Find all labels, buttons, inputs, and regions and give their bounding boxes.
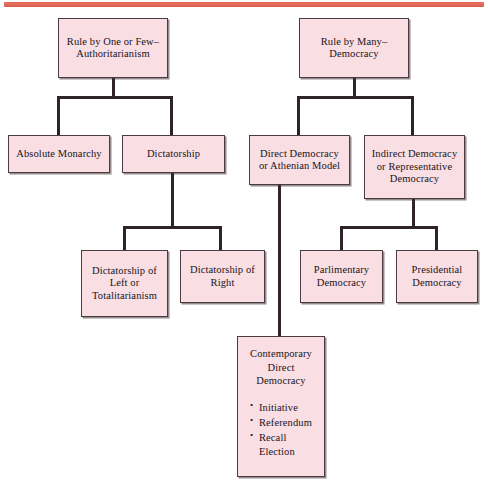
connector-democracy-stem xyxy=(353,78,356,98)
connector-to-direct-democracy xyxy=(297,96,300,136)
node-indirect-democracy-label: Indirect Democracy or Representative Dem… xyxy=(372,148,457,185)
node-presidential-democracy-label: Presidential Democracy xyxy=(412,264,463,289)
node-democracy-label: Rule by Many– Democracy xyxy=(321,36,388,61)
connector-to-presidential-democracy xyxy=(435,226,438,250)
node-parliamentary-democracy[interactable]: Parlimentary Democracy xyxy=(300,250,383,303)
connector-democracy-bar xyxy=(297,96,413,99)
node-dictatorship-left[interactable]: Dictatorship of Left or Totalitarianism xyxy=(81,250,168,317)
connector-to-dictatorship-left xyxy=(123,226,126,250)
node-democracy[interactable]: Rule by Many– Democracy xyxy=(299,18,409,78)
connector-to-dictatorship xyxy=(170,96,173,136)
top-rule-divider xyxy=(4,2,484,7)
connector-indirect-democracy-bar xyxy=(340,226,438,229)
government-forms-diagram: Rule by One or Few– Authoritarianism Rul… xyxy=(0,0,488,487)
connector-to-contemporary-direct-democracy xyxy=(278,185,281,337)
connector-to-dictatorship-right xyxy=(219,226,222,250)
node-contemporary-direct-democracy-heading: Contemporary Direct Democracy xyxy=(244,347,318,388)
list-item: Recall Election xyxy=(250,431,318,459)
connector-authoritarianism-stem xyxy=(112,78,115,98)
list-item: Initiative xyxy=(250,401,318,415)
node-presidential-democracy[interactable]: Presidential Democracy xyxy=(396,250,478,303)
contemporary-direct-democracy-bullet-list: Initiative Referendum Recall Election xyxy=(244,401,318,458)
node-absolute-monarchy-label: Absolute Monarchy xyxy=(16,148,101,160)
node-parliamentary-democracy-label: Parlimentary Democracy xyxy=(314,264,369,289)
list-item: Referendum xyxy=(250,416,318,430)
node-dictatorship-right-label: Dictatorship of Right xyxy=(190,264,255,289)
connector-authoritarianism-bar xyxy=(57,96,172,99)
node-dictatorship-left-label: Dictatorship of Left or Totalitarianism xyxy=(92,265,157,302)
connector-to-absolute-monarchy xyxy=(57,96,60,136)
node-absolute-monarchy[interactable]: Absolute Monarchy xyxy=(8,135,110,173)
node-direct-democracy-label: Direct Democracy or Athenian Model xyxy=(259,148,340,173)
node-authoritarianism[interactable]: Rule by One or Few– Authoritarianism xyxy=(58,18,168,78)
connector-indirect-democracy-stem xyxy=(412,199,415,228)
node-authoritarianism-label: Rule by One or Few– Authoritarianism xyxy=(67,36,159,61)
node-dictatorship-label: Dictatorship xyxy=(147,148,200,160)
node-indirect-democracy[interactable]: Indirect Democracy or Representative Dem… xyxy=(364,135,465,199)
node-contemporary-direct-democracy[interactable]: Contemporary Direct Democracy Initiative… xyxy=(237,336,325,477)
connector-to-indirect-democracy xyxy=(411,96,414,136)
connector-to-parliamentary-democracy xyxy=(340,226,343,250)
connector-dictatorship-stem xyxy=(171,173,174,228)
node-dictatorship-right[interactable]: Dictatorship of Right xyxy=(180,250,265,303)
node-direct-democracy[interactable]: Direct Democracy or Athenian Model xyxy=(249,135,350,185)
node-dictatorship[interactable]: Dictatorship xyxy=(122,135,225,173)
connector-dictatorship-bar xyxy=(123,226,221,229)
